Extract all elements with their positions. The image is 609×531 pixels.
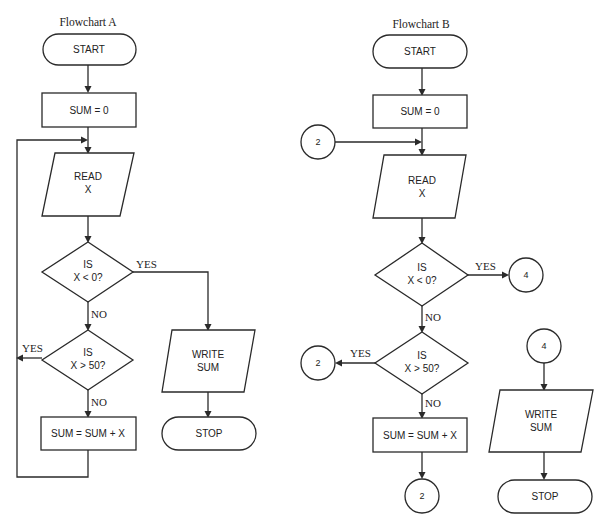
flowchart-b: Flowchart B START SUM = 0 2 READ X (301, 18, 593, 513)
decision1-no-label: NO (91, 308, 107, 320)
read-label-line2: X (419, 188, 426, 199)
decision2-no-label: NO (91, 396, 107, 408)
flowchart-a-stop-terminal: STOP (162, 417, 256, 450)
decision2-label-line1: IS (417, 350, 427, 361)
arrow-down-icon (419, 472, 426, 479)
connector-label: 2 (315, 358, 320, 368)
flowchart-b-accumulate-process: SUM = SUM + X (373, 418, 467, 452)
arrow-down-icon (541, 473, 548, 480)
flowchart-b-decision-negative: IS X < 0? (375, 243, 468, 306)
connector-label: 2 (315, 137, 320, 147)
flowchart-b-connector-2-entry: 2 (301, 125, 335, 159)
decision1-label-line2: X < 0? (407, 275, 437, 286)
process-label: SUM = SUM + X (51, 428, 125, 439)
decision2-label-line1: IS (83, 347, 93, 358)
process-label: SUM = SUM + X (383, 430, 457, 441)
decision1-no-label: NO (425, 311, 441, 323)
flowchart-a-decision-negative: IS X < 0? (42, 242, 133, 302)
connector-label: 2 (419, 491, 424, 501)
read-label-line1: READ (74, 171, 102, 182)
init-label: SUM = 0 (69, 105, 109, 116)
flowchart-b-start-terminal: START (373, 35, 467, 68)
flowchart-a-read-input: READ X (42, 153, 134, 216)
flowcharts-canvas: Flowchart A START SUM = 0 READ X IS X < … (0, 0, 609, 531)
flowchart-a-accumulate-process: SUM = SUM + X (41, 417, 136, 450)
arrow-down-icon (85, 86, 92, 93)
stop-label: STOP (195, 428, 222, 439)
decision2-yes-label: YES (22, 342, 43, 354)
read-label-line2: X (85, 184, 92, 195)
arrow-right-icon (81, 137, 88, 144)
start-label: START (404, 46, 436, 57)
decision2-no-label: NO (425, 397, 441, 409)
read-label-line1: READ (408, 175, 436, 186)
flowchart-b-init-process: SUM = 0 (373, 95, 467, 128)
arrow-right-icon (502, 272, 509, 279)
arrow-right-icon (415, 139, 422, 146)
flowchart-a-init-process: SUM = 0 (42, 93, 136, 127)
arrow-left-icon (335, 360, 342, 367)
connector-label: 4 (541, 341, 546, 351)
flowchart-b-title: Flowchart B (392, 18, 450, 30)
write-label-line1: WRITE (192, 349, 225, 360)
flowchart-b-stop-terminal: STOP (498, 480, 592, 513)
decision1-yes-label: YES (136, 258, 157, 270)
start-label: START (73, 44, 105, 55)
flowchart-b-connector-4-entry: 4 (527, 329, 561, 363)
flowchart-b-decision-over-50: IS X > 50? (375, 332, 468, 394)
decision1-yes-label: YES (475, 260, 496, 272)
write-label-line2: SUM (530, 422, 552, 433)
flowchart-a-decision-over-50: IS X > 50? (42, 330, 133, 390)
init-label: SUM = 0 (400, 106, 440, 117)
decision2-label-line2: X > 50? (405, 363, 440, 374)
decision1-label-line1: IS (83, 259, 93, 270)
connector-label: 4 (523, 270, 528, 280)
decision1-label-line2: X < 0? (73, 272, 103, 283)
flowchart-b-read-input: READ X (373, 155, 466, 218)
decision2-label-line2: X > 50? (71, 360, 106, 371)
stop-label: STOP (531, 491, 558, 502)
decision1-label-line1: IS (417, 262, 427, 273)
flowchart-a: Flowchart A START SUM = 0 READ X IS X < … (16, 16, 256, 477)
flowchart-b-connector-2-loop: 2 (301, 346, 335, 380)
flowchart-b-connector-2-return: 2 (405, 479, 439, 513)
flowchart-b-connector-4-exit: 4 (509, 258, 543, 292)
flowchart-a-start-terminal: START (43, 34, 136, 65)
decision2-yes-label: YES (350, 347, 371, 359)
write-label-line2: SUM (197, 362, 219, 373)
write-label-line1: WRITE (525, 409, 558, 420)
flowchart-a-title: Flowchart A (59, 16, 117, 28)
flowchart-b-write-output: WRITE SUM (489, 390, 593, 452)
flowchart-a-write-output: WRITE SUM (162, 330, 255, 392)
